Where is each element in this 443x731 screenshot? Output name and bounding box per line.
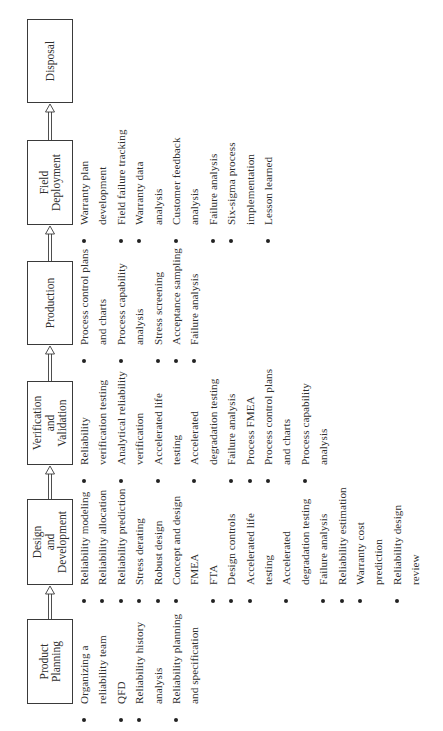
task-item-text: analysis bbox=[130, 309, 148, 345]
task-item-text: Lesson learned bbox=[259, 157, 277, 225]
task-item-text: Accelerated bbox=[277, 531, 295, 585]
task-item-text: Accelerated life bbox=[241, 513, 259, 585]
bullet-icon bbox=[229, 239, 233, 243]
task-item-text: degradation testing bbox=[296, 499, 314, 585]
task-item-text: FMEA bbox=[185, 554, 203, 585]
bullet-icon bbox=[156, 359, 160, 363]
arrow-right-icon bbox=[44, 465, 56, 499]
task-item-text: Failure analysis bbox=[185, 274, 203, 345]
task-item-text: verification bbox=[130, 413, 148, 465]
bullet-icon bbox=[266, 479, 270, 483]
task-item-text: degradation testing bbox=[204, 379, 222, 465]
bullet-icon bbox=[303, 479, 307, 483]
stage-box-verification-validation: Verification and Validation bbox=[27, 381, 73, 465]
stage-label: Product Planning bbox=[38, 641, 63, 682]
task-item-text: Accelerated life bbox=[149, 393, 167, 465]
task-item-text: and charts bbox=[93, 299, 111, 345]
task-item-text: Stress screening bbox=[149, 272, 167, 345]
task-item-text: Warranty plan bbox=[75, 161, 93, 225]
task-item-text: Robust design bbox=[149, 521, 167, 585]
bullet-icon bbox=[174, 599, 178, 603]
bullet-icon bbox=[174, 239, 178, 243]
bullet-icon bbox=[82, 479, 86, 483]
bullet-icon bbox=[248, 599, 252, 603]
bullet-icon bbox=[266, 239, 270, 243]
stage-box-field-deployment: Field Deployment bbox=[27, 140, 73, 225]
bullet-icon bbox=[192, 479, 196, 483]
task-item-text: Concept and design bbox=[167, 496, 185, 585]
task-item-text: Reliability bbox=[75, 417, 93, 465]
task-item-text: Reliability estimation bbox=[333, 487, 351, 585]
bullet-icon bbox=[119, 359, 123, 363]
task-item-text: Failure analysis bbox=[222, 394, 240, 465]
task-item-text: QFD bbox=[112, 681, 130, 704]
bullet-icon bbox=[284, 599, 288, 603]
bullet-icon bbox=[119, 599, 123, 603]
task-item-text: Reliability allocation bbox=[93, 490, 111, 585]
task-item-text: Process control plans bbox=[75, 249, 93, 345]
bullet-icon bbox=[174, 359, 178, 363]
bullet-icon bbox=[174, 718, 178, 722]
bullet-icon bbox=[100, 599, 104, 603]
bullet-icon bbox=[321, 599, 325, 603]
task-item-text: Six-sigma process bbox=[222, 142, 240, 225]
bullet-icon bbox=[340, 599, 344, 603]
stage-label: Disposal bbox=[44, 41, 57, 81]
task-item-text: Design controls bbox=[222, 514, 240, 585]
task-item-text: Reliability modeling bbox=[75, 492, 93, 585]
task-item-text: Failure analysis bbox=[204, 154, 222, 225]
task-item-text: testing bbox=[167, 435, 185, 465]
task-item-text: testing bbox=[259, 555, 277, 585]
bullet-icon bbox=[156, 479, 160, 483]
task-item-text: Process FMEA bbox=[241, 396, 259, 465]
stage-label: Production bbox=[44, 278, 57, 328]
task-item-text: development bbox=[93, 167, 111, 225]
bullet-icon bbox=[137, 599, 141, 603]
arrow-right-icon bbox=[44, 103, 56, 140]
task-item-text: Analytical reliability bbox=[112, 371, 130, 465]
bullet-icon bbox=[82, 599, 86, 603]
task-item-text: Organizing a bbox=[75, 646, 93, 705]
stage-label: Field Deployment bbox=[38, 154, 63, 211]
stage-box-design-development: Design and Development bbox=[27, 499, 73, 585]
task-item-text: Stress derating bbox=[130, 518, 148, 585]
bullet-icon bbox=[211, 239, 215, 243]
bullet-icon bbox=[192, 359, 196, 363]
task-item-text: verification testing bbox=[93, 380, 111, 465]
task-item-text: Accelerated bbox=[185, 411, 203, 465]
task-item-text: Customer feedback bbox=[167, 137, 185, 225]
task-item-text: FTA bbox=[204, 565, 222, 585]
bullet-icon bbox=[137, 239, 141, 243]
task-item-text: Reliability prediction bbox=[112, 489, 130, 585]
bullet-icon bbox=[82, 359, 86, 363]
task-item-text: analysis bbox=[314, 429, 332, 465]
bullet-icon bbox=[229, 599, 233, 603]
task-item-text: Field failure tracking bbox=[112, 129, 130, 225]
task-item-text: analysis bbox=[149, 189, 167, 225]
task-item-text: Process capability bbox=[296, 383, 314, 465]
task-item-text: Reliability history bbox=[130, 622, 148, 704]
bullet-icon bbox=[82, 239, 86, 243]
lifecycle-diagram: Product Planning Design and Development … bbox=[0, 0, 443, 731]
task-item-text: Acceptance sampling bbox=[167, 248, 185, 345]
task-item-text: reliability team bbox=[93, 635, 111, 704]
bullet-icon bbox=[156, 599, 160, 603]
bullet-icon bbox=[229, 479, 233, 483]
bullet-icon bbox=[211, 599, 215, 603]
arrow-right-icon bbox=[44, 225, 56, 261]
task-item-text: review bbox=[406, 554, 424, 585]
bullet-icon bbox=[395, 599, 399, 603]
arrow-right-icon bbox=[44, 585, 56, 619]
task-item-text: Process control plans bbox=[259, 369, 277, 465]
bullet-icon bbox=[137, 718, 141, 722]
arrow-right-icon bbox=[44, 345, 56, 381]
task-item-text: Failure analysis bbox=[314, 514, 332, 585]
stage-label: Verification and Validation bbox=[31, 396, 69, 450]
task-item-text: prediction bbox=[369, 539, 387, 585]
task-item-text: analysis bbox=[185, 189, 203, 225]
stage-box-disposal: Disposal bbox=[27, 19, 73, 103]
task-item-text: and specification bbox=[185, 627, 203, 704]
bullet-icon bbox=[358, 599, 362, 603]
task-item-text: analysis bbox=[149, 668, 167, 704]
task-item-text: Process capability bbox=[112, 263, 130, 345]
